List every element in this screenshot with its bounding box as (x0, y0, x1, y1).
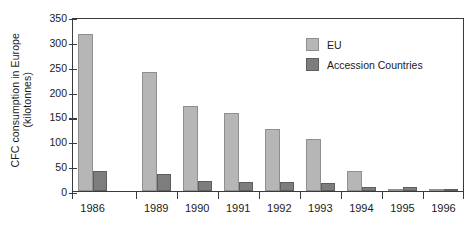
y-axis-tick-label: 200 (49, 87, 67, 99)
x-axis-tick-mark (382, 192, 383, 199)
y-axis-tick-labels: 050100150200250300350 (40, 0, 70, 200)
x-axis-tick-label: 1990 (185, 202, 209, 214)
bar-accession-1991 (239, 182, 254, 191)
bar-accession-1993 (321, 183, 336, 191)
legend-swatch-eu (306, 38, 319, 51)
y-axis-tick-label: 300 (49, 37, 67, 49)
bar-accession-1986 (93, 171, 108, 191)
y-axis-tick-label: 150 (49, 111, 67, 123)
y-axis-tick-mark (69, 19, 77, 20)
x-axis-tick-label: 1986 (80, 202, 104, 214)
y-axis-tick-mark (69, 118, 77, 119)
x-axis-tick-mark (259, 192, 260, 199)
bar-eu-1994 (347, 171, 362, 191)
x-axis-tick-mark (341, 192, 342, 199)
y-axis-tick-mark (69, 168, 77, 169)
y-axis-title: CFC consumption in Europe (kilotonnes) (0, 0, 42, 200)
bar-accession-1992 (280, 182, 295, 191)
x-axis-tick-label: 1996 (431, 202, 455, 214)
legend-entry-eu: EU (306, 38, 423, 51)
x-axis-tick-mark (423, 192, 424, 199)
x-axis-tick-label: 1992 (267, 202, 291, 214)
cfc-consumption-bar-chart: CFC consumption in Europe (kilotonnes) 0… (0, 0, 476, 235)
bar-accession-1996 (444, 189, 459, 191)
y-axis-tick-label: 50 (55, 161, 67, 173)
legend-label-accession-countries: Accession Countries (327, 59, 423, 71)
bar-accession-1994 (362, 187, 377, 191)
y-axis-tick-mark (69, 143, 77, 144)
bar-eu-1996 (429, 189, 444, 191)
legend-swatch-accession-countries (306, 58, 319, 71)
x-axis-tick-label: 1993 (308, 202, 332, 214)
bar-eu-1990 (183, 106, 198, 192)
x-axis-tick-label: 1995 (390, 202, 414, 214)
bar-eu-1992 (265, 129, 280, 191)
chart-legend: EU Accession Countries (306, 38, 423, 71)
y-axis-tick-label: 350 (49, 12, 67, 24)
bar-eu-1989 (142, 72, 157, 191)
x-axis-tick-label: 1991 (226, 202, 250, 214)
y-axis-tick-mark (69, 94, 77, 95)
x-axis-tick-mark (218, 192, 219, 199)
bar-eu-1993 (306, 139, 321, 191)
bar-accession-1990 (198, 181, 213, 191)
bar-eu-1995 (388, 189, 403, 191)
x-axis-tick-mark (136, 192, 137, 199)
x-axis-tick-label: 1989 (144, 202, 168, 214)
x-axis-tick-mark (463, 192, 464, 199)
bar-accession-1995 (403, 187, 418, 191)
y-axis-tick-mark (69, 69, 77, 70)
y-axis-title-line-1: CFC consumption in Europe (10, 33, 21, 167)
bar-eu-1991 (224, 113, 239, 191)
x-axis: 198619891990199119921993199419951996 (72, 192, 464, 235)
y-axis-title-line-2: (kilotonnes) (22, 72, 33, 127)
x-axis-tick-mark (177, 192, 178, 199)
bar-accession-1989 (157, 174, 172, 191)
y-axis-tick-mark (69, 44, 77, 45)
y-axis-tick-label: 0 (61, 186, 67, 198)
x-axis-tick-mark (300, 192, 301, 199)
legend-label-eu: EU (327, 39, 342, 51)
y-axis-tick-label: 100 (49, 136, 67, 148)
bar-eu-1986 (78, 34, 93, 191)
legend-entry-accession-countries: Accession Countries (306, 58, 423, 71)
x-axis-tick-mark (72, 192, 73, 199)
x-axis-tick-label: 1994 (349, 202, 373, 214)
y-axis-tick-label: 250 (49, 62, 67, 74)
